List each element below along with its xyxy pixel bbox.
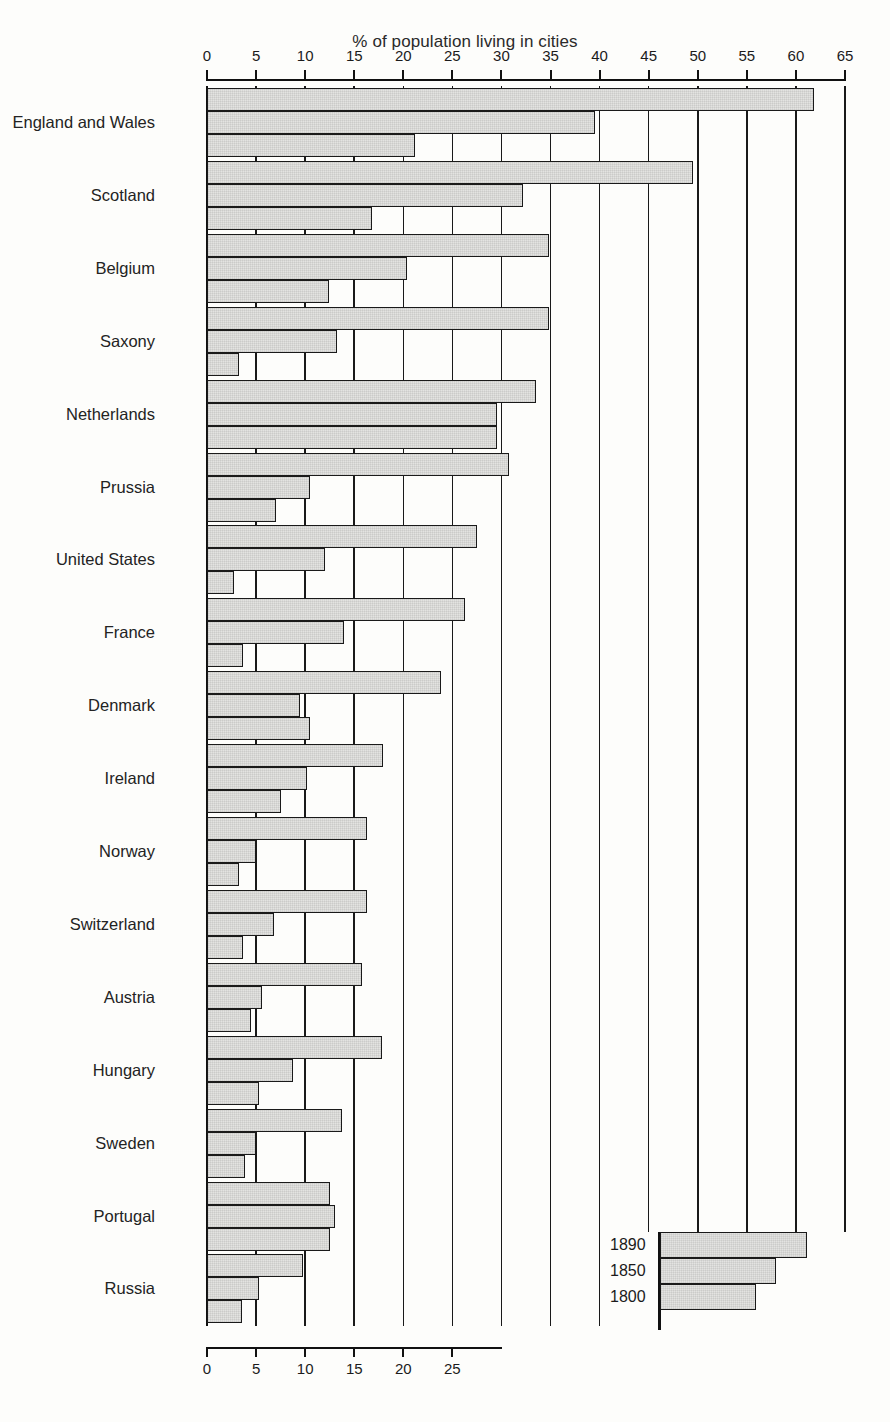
top-axis: 05101520253035404550556065: [207, 79, 845, 81]
category-label: Switzerland: [70, 915, 155, 934]
bar-group: [207, 963, 845, 1032]
bar: [207, 986, 262, 1009]
bar-group: [207, 380, 845, 449]
bar: [207, 1254, 303, 1277]
bar: [207, 863, 239, 886]
category-label: Hungary: [93, 1061, 155, 1080]
bar: [207, 111, 595, 134]
bar-group: [207, 671, 845, 740]
bar-group: [207, 88, 845, 157]
bar: [207, 525, 477, 548]
bar: [207, 307, 549, 330]
top-axis-tick-label: 45: [640, 47, 657, 64]
legend-swatch: [660, 1232, 807, 1258]
legend-label: 1800: [610, 1288, 646, 1306]
bar: [207, 694, 300, 717]
category-label: France: [104, 623, 155, 642]
category-label: Belgium: [95, 259, 155, 278]
top-axis-tick-label: 55: [739, 47, 756, 64]
bar-group: [207, 307, 845, 376]
bar: [207, 1059, 293, 1082]
category-label: Scotland: [91, 186, 155, 205]
top-axis-tick: [304, 70, 306, 81]
top-axis-tick: [795, 70, 797, 81]
top-axis-tick: [746, 70, 748, 81]
bar: [207, 717, 310, 740]
bottom-axis: 0510152025: [207, 1347, 502, 1349]
bar: [207, 644, 243, 667]
top-axis-tick-label: 50: [689, 47, 706, 64]
legend-label: 1850: [610, 1262, 646, 1280]
bar: [207, 403, 497, 426]
bar-group: [207, 161, 845, 230]
bottom-axis-tick-label: 15: [346, 1360, 363, 1377]
bar: [207, 161, 693, 184]
top-axis-tick: [353, 70, 355, 81]
bar: [207, 1228, 330, 1251]
bar: [207, 767, 307, 790]
bar: [207, 207, 372, 230]
bar: [207, 963, 362, 986]
top-axis-tick: [206, 70, 208, 81]
bar-group: [207, 1036, 845, 1105]
bar: [207, 134, 415, 157]
bar: [207, 840, 256, 863]
bar: [207, 671, 441, 694]
bar: [207, 890, 367, 913]
bar: [207, 476, 310, 499]
bar: [207, 598, 465, 621]
plot-area: England and WalesScotlandBelgiumSaxonyNe…: [207, 86, 845, 1326]
top-axis-tick-label: 10: [297, 47, 314, 64]
bottom-axis-tick: [255, 1347, 257, 1357]
top-axis-tick: [697, 70, 699, 81]
top-axis-tick-label: 5: [252, 47, 260, 64]
bar: [207, 280, 329, 303]
bottom-axis-tick: [304, 1347, 306, 1357]
bar: [207, 1300, 242, 1323]
bar: [207, 1109, 342, 1132]
bottom-axis-tick: [206, 1347, 208, 1357]
category-label: Ireland: [105, 769, 155, 788]
top-axis-tick: [648, 70, 650, 81]
bar: [207, 453, 509, 476]
bar: [207, 257, 407, 280]
top-axis-tick-label: 0: [203, 47, 211, 64]
top-axis-tick-label: 60: [788, 47, 805, 64]
bottom-axis-tick: [451, 1347, 453, 1357]
bar-group: [207, 525, 845, 594]
top-axis-tick-label: 30: [493, 47, 510, 64]
bar: [207, 936, 243, 959]
bar-group: [207, 817, 845, 886]
bottom-axis-tick: [402, 1347, 404, 1357]
bar: [207, 744, 383, 767]
bar: [207, 1132, 256, 1155]
bar-chart: % of population living in cities 0510152…: [0, 0, 890, 1422]
legend-label: 1890: [610, 1236, 646, 1254]
bar: [207, 234, 549, 257]
bottom-axis-tick-label: 20: [395, 1360, 412, 1377]
category-label: Sweden: [95, 1134, 155, 1153]
top-axis-tick-label: 65: [837, 47, 854, 64]
bottom-axis-tick-label: 5: [252, 1360, 260, 1377]
top-axis-tick: [599, 70, 601, 81]
bottom-axis-tick-label: 25: [444, 1360, 461, 1377]
category-label: Denmark: [88, 696, 155, 715]
category-label: United States: [56, 550, 155, 569]
bar: [207, 571, 234, 594]
top-axis-tick-label: 40: [591, 47, 608, 64]
bar: [207, 1036, 382, 1059]
bottom-axis-tick-label: 10: [297, 1360, 314, 1377]
bar: [207, 1277, 259, 1300]
bar: [207, 1009, 251, 1032]
bottom-axis-tick: [353, 1347, 355, 1357]
bar: [207, 913, 274, 936]
bar: [207, 817, 367, 840]
bar: [207, 330, 337, 353]
bar-group: [207, 1109, 845, 1178]
category-label: Saxony: [100, 332, 155, 351]
bar: [207, 621, 344, 644]
bar: [207, 1155, 245, 1178]
category-label: Portugal: [94, 1207, 155, 1226]
category-label: Netherlands: [66, 405, 155, 424]
top-axis-tick: [500, 70, 502, 81]
